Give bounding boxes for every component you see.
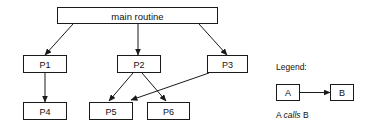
legend-node-b: B: [331, 85, 354, 101]
edge-main-to-p3: [199, 24, 227, 55]
node-main-routine-label: main routine: [111, 11, 163, 22]
node-main-routine: main routine: [58, 8, 218, 24]
node-p5: P5: [90, 103, 133, 120]
edge-p2-to-p5: [109, 73, 133, 101]
legend-node-b-label: B: [339, 88, 345, 98]
node-p3: P3: [208, 56, 248, 73]
legend: Legend: A B A calls B: [276, 62, 354, 120]
legend-caption-suffix: B: [301, 110, 309, 120]
diagram-canvas: main routine P1 P2 P3 P4 P5: [0, 0, 375, 129]
node-p3-label: P3: [222, 60, 233, 70]
legend-node-a: A: [277, 85, 300, 101]
edge-p3-to-p5: [131, 73, 209, 100]
edge-p2-to-p6: [142, 73, 166, 101]
node-p1-label: P1: [39, 60, 50, 70]
node-p6-label: P6: [163, 107, 174, 117]
node-p6: P6: [148, 103, 190, 120]
node-p2: P2: [118, 56, 161, 73]
node-p5-label: P5: [105, 107, 116, 117]
node-p1: P1: [24, 56, 67, 73]
node-p2-label: P2: [133, 60, 144, 70]
legend-caption-emphasis: calls: [284, 110, 302, 120]
legend-node-a-label: A: [285, 88, 291, 98]
edge-main-to-p1: [45, 24, 73, 55]
node-p4-label: P4: [39, 107, 50, 117]
legend-title: Legend:: [276, 62, 307, 72]
legend-caption-prefix: A: [276, 110, 284, 120]
legend-caption: A calls B: [276, 110, 309, 120]
call-graph-diagram: main routine P1 P2 P3 P4 P5: [0, 0, 375, 129]
node-p4: P4: [24, 103, 67, 120]
